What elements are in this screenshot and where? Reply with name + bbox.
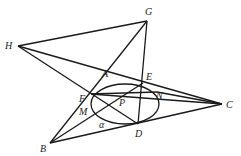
label-alpha: α (99, 120, 104, 130)
line-NC (157, 92, 222, 104)
label-H: H (5, 41, 12, 51)
figure-lines (0, 0, 241, 156)
label-C: C (226, 100, 233, 110)
label-F: F (79, 94, 85, 104)
label-N: N (156, 91, 163, 101)
line-BE (50, 83, 143, 143)
label-B: B (40, 144, 46, 154)
label-A: A (102, 69, 108, 79)
label-M: M (79, 107, 87, 117)
line-HD (18, 46, 138, 124)
line-HG (18, 21, 147, 46)
label-P: P (119, 98, 125, 108)
label-E: E (146, 72, 152, 82)
label-G: G (145, 7, 152, 17)
label-D: D (135, 129, 142, 139)
geometry-figure: H G A E F P N M α D C B (0, 0, 241, 156)
line-FN (91, 92, 157, 94)
